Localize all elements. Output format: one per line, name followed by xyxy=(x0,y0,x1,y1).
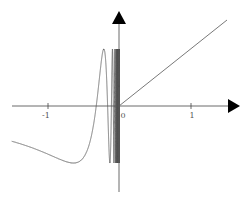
tick-label-1: 1 xyxy=(189,111,194,120)
x-axis-arrow-icon xyxy=(228,99,240,113)
tick-label-0: 0 xyxy=(120,111,125,120)
tick-label-neg1: -1 xyxy=(42,111,50,120)
y-axis-arrow-icon xyxy=(112,11,126,24)
function-plot: -1 0 1 xyxy=(0,0,248,202)
curve-identity-line xyxy=(119,20,227,106)
